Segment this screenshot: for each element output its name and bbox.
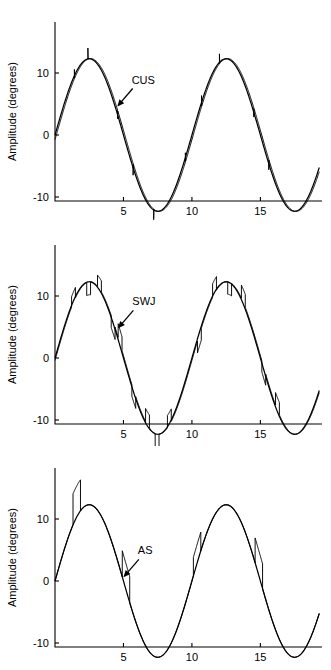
y-tick-label: 0	[43, 575, 49, 587]
y-axis-title: Amplitude (degrees)	[6, 62, 18, 161]
panel-cus-plot: 51015100-10Time (seconds)Amplitude (degr…	[0, 0, 331, 223]
x-tick-label: 15	[254, 205, 266, 217]
x-tick-label: 5	[120, 428, 126, 440]
eye-movement-figure: 51015100-10Time (seconds)Amplitude (degr…	[0, 0, 331, 670]
annotation-label-cus: CUS	[132, 74, 155, 86]
panel-swj-plot: 51015100-10Time (seconds)Amplitude (degr…	[0, 223, 331, 446]
target-sine-trace	[55, 59, 319, 212]
panel-as-plot: 51015100-10Time (seconds)Amplitude (degr…	[0, 446, 331, 669]
y-tick-label: 10	[37, 290, 49, 302]
target-sine-trace	[55, 505, 319, 658]
x-tick-label: 5	[120, 205, 126, 217]
annotation-label-as: AS	[138, 544, 153, 556]
eye-position-trace-swj	[55, 275, 319, 446]
axis-lines	[55, 245, 322, 424]
axis-lines	[55, 468, 322, 647]
x-tick-label: 10	[186, 428, 198, 440]
x-tick-label: 10	[186, 205, 198, 217]
x-tick-label: 15	[254, 651, 266, 663]
y-tick-label: 10	[37, 67, 49, 79]
y-axis-title: Amplitude (degrees)	[6, 285, 18, 384]
y-tick-label: 10	[37, 513, 49, 525]
x-tick-label: 10	[186, 651, 198, 663]
panel-cus: 51015100-10Time (seconds)Amplitude (degr…	[0, 0, 331, 223]
annotation-label-swj: SWJ	[132, 295, 155, 307]
y-tick-label: 0	[43, 129, 49, 141]
y-tick-label: -10	[33, 637, 49, 649]
y-tick-label: -10	[33, 414, 49, 426]
panel-as: 51015100-10Time (seconds)Amplitude (degr…	[0, 446, 331, 669]
y-tick-label: -10	[33, 191, 49, 203]
x-tick-label: 5	[120, 651, 126, 663]
panel-swj: 51015100-10Time (seconds)Amplitude (degr…	[0, 223, 331, 446]
y-axis-title: Amplitude (degrees)	[6, 508, 18, 607]
x-axis-title: Time (seconds)	[151, 668, 226, 669]
x-tick-label: 15	[254, 428, 266, 440]
y-tick-label: 0	[43, 352, 49, 364]
axis-lines	[55, 22, 322, 201]
